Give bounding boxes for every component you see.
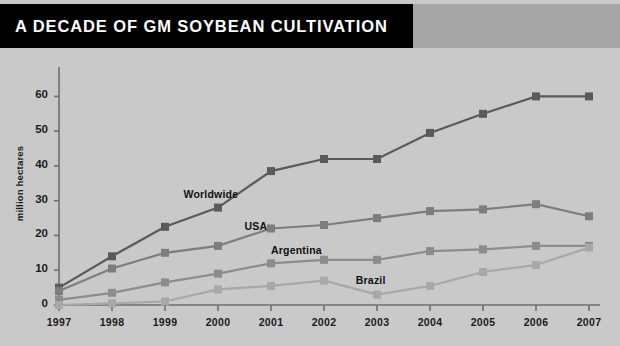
x-tick-label: 2006 [513,316,559,328]
chart-series [55,92,593,309]
x-tick-label: 2001 [248,316,294,328]
series-label-usa: USA [245,220,268,232]
x-tick-label: 2004 [407,316,453,328]
chart-axes [54,67,600,311]
y-axis-title: million hectares [14,129,25,239]
x-tick-label: 2007 [566,316,612,328]
x-tick-label: 2000 [195,316,241,328]
series-label-brazil: Brazil [356,274,386,286]
x-tick-label: 1999 [142,316,188,328]
page-title: A DECADE OF GM SOYBEAN CULTIVATION [0,17,388,36]
y-tick-label: 10 [14,262,48,274]
line-chart-svg [0,48,620,346]
series-label-argentina: Argentina [271,244,322,256]
title-bar: A DECADE OF GM SOYBEAN CULTIVATION [0,4,413,48]
y-tick-label: 0 [14,297,48,309]
x-tick-label: 2003 [354,316,400,328]
chart-plot-area: 0102030405060 19971998199920002001200220… [0,48,620,346]
x-tick-label: 2005 [460,316,506,328]
x-tick-label: 1998 [89,316,135,328]
y-tick-label: 60 [14,88,48,100]
x-tick-label: 1997 [36,316,82,328]
series-label-worldwide: Worldwide [184,188,239,200]
chart-page: A DECADE OF GM SOYBEAN CULTIVATION 01020… [0,0,620,346]
x-tick-label: 2002 [301,316,347,328]
